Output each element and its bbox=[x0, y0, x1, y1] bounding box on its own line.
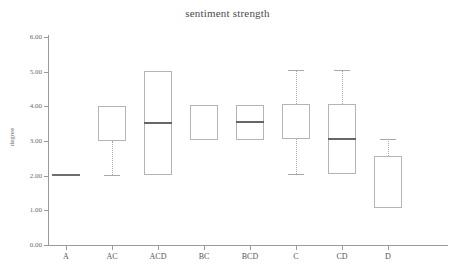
whisker-lower bbox=[296, 139, 297, 174]
whisker-lower bbox=[112, 141, 113, 175]
y-axis-title: degree bbox=[8, 117, 16, 157]
y-tick-label: 1.00 bbox=[8, 207, 42, 214]
x-tick-mark bbox=[250, 246, 251, 250]
median-line bbox=[236, 121, 264, 123]
whisker-upper bbox=[296, 70, 297, 104]
y-tick-label: 6.00 bbox=[8, 34, 42, 41]
whisker-upper bbox=[388, 139, 389, 156]
y-tick-mark bbox=[44, 141, 49, 142]
whisker-cap-upper bbox=[288, 70, 304, 71]
x-tick-mark bbox=[66, 246, 67, 250]
y-tick-mark bbox=[44, 176, 49, 177]
median-line bbox=[328, 138, 356, 140]
x-tick-mark bbox=[158, 246, 159, 250]
x-tick-label-acd: ACD bbox=[138, 252, 178, 261]
y-tick-mark bbox=[44, 37, 49, 38]
y-tick-mark bbox=[44, 210, 49, 211]
whisker-cap-upper bbox=[334, 70, 350, 71]
x-tick-mark bbox=[342, 246, 343, 250]
box-rect bbox=[374, 156, 402, 208]
y-tick-mark bbox=[44, 245, 49, 246]
x-tick-label-bcd: BCD bbox=[230, 252, 270, 261]
whisker-cap-lower bbox=[104, 175, 120, 176]
x-tick-label-cd: CD bbox=[322, 252, 362, 261]
y-tick-label: 2.00 bbox=[8, 173, 42, 180]
chart-title: sentiment strength bbox=[0, 7, 455, 19]
y-tick-label: 4.00 bbox=[8, 103, 42, 110]
x-tick-mark bbox=[204, 246, 205, 250]
box-rect bbox=[190, 105, 218, 140]
x-tick-label-ac: AC bbox=[92, 252, 132, 261]
box-flat-line bbox=[52, 174, 80, 176]
box-rect bbox=[282, 104, 310, 139]
y-tick-mark bbox=[44, 72, 49, 73]
x-tick-label-a: A bbox=[46, 252, 86, 261]
whisker-cap-upper bbox=[380, 139, 396, 140]
x-tick-label-c: C bbox=[276, 252, 316, 261]
median-line bbox=[144, 122, 172, 124]
y-tick-mark bbox=[44, 106, 49, 107]
x-tick-mark bbox=[388, 246, 389, 250]
x-tick-label-d: D bbox=[368, 252, 408, 261]
clipped-artifact-row bbox=[0, 264, 455, 271]
y-tick-label: 0.00 bbox=[8, 242, 42, 249]
x-tick-label-bc: BC bbox=[184, 252, 224, 261]
whisker-cap-lower bbox=[288, 174, 304, 175]
whisker-upper bbox=[342, 70, 343, 104]
x-tick-mark bbox=[296, 246, 297, 250]
x-tick-mark bbox=[112, 246, 113, 250]
y-tick-label: 5.00 bbox=[8, 69, 42, 76]
y-tick-label: 3.00 bbox=[8, 138, 42, 145]
box-rect bbox=[98, 106, 126, 141]
box-plot-figure: sentiment strength degree 0.001.002.003.… bbox=[0, 0, 455, 271]
